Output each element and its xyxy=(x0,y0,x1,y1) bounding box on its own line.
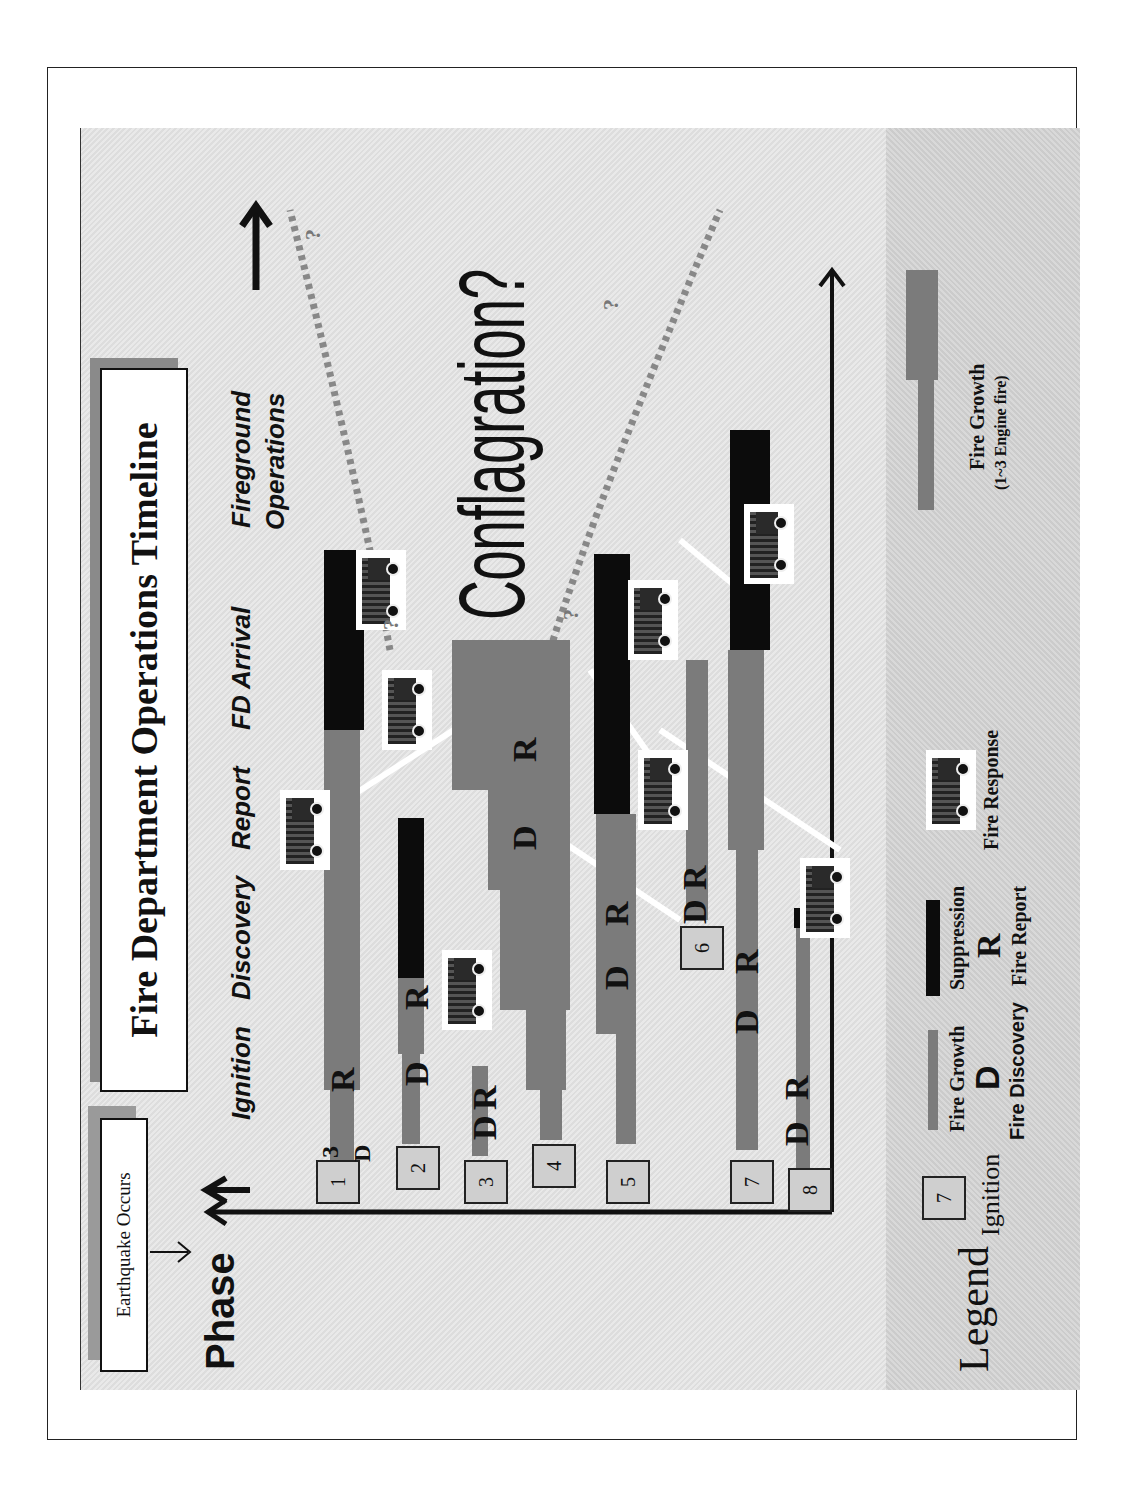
legend-fire-truck-icon xyxy=(926,750,976,830)
ignition-box-3: 3 xyxy=(464,1160,508,1204)
fire-truck-icon xyxy=(744,504,794,584)
fire-growth-bar-7a xyxy=(736,850,758,1150)
discovery-4: D xyxy=(508,825,542,850)
legend-fire-growth-swatch xyxy=(928,1030,938,1130)
legend-suppression-label: Suppression xyxy=(946,886,969,990)
legend-discovery-letter: D xyxy=(970,1065,1004,1090)
legend-suppression-swatch xyxy=(926,900,940,996)
legend-fire-growth-engine-label: Fire Growth xyxy=(966,364,989,470)
report-5: R xyxy=(600,901,634,926)
fire-growth-bar-3 xyxy=(472,1066,488,1156)
phase-fireground: Fireground xyxy=(226,391,257,528)
question-mark: ? xyxy=(560,609,582,620)
report-6: R xyxy=(678,865,712,890)
legend-fire-growth-engine-swatch-a xyxy=(918,380,934,510)
fire-truck-icon xyxy=(628,580,678,660)
discovery-6: D xyxy=(678,899,712,924)
question-mark: ? xyxy=(600,299,622,310)
conflagration-label: Conflagration? xyxy=(440,269,545,620)
suppression-bar-2 xyxy=(398,818,424,978)
discovery-7: D xyxy=(730,1009,764,1034)
fire-growth-bar-4b xyxy=(526,1010,566,1090)
phase-discovery: Discovery xyxy=(226,876,257,1000)
legend-fire-response-label: Fire Response xyxy=(980,730,1003,850)
fire-truck-icon xyxy=(280,790,330,870)
report-4: R xyxy=(508,737,542,762)
ignition-box-7: 7 xyxy=(730,1160,774,1204)
ignition-box-8: 8 xyxy=(788,1168,832,1212)
report-7: R xyxy=(730,949,764,974)
suppression-bar-5 xyxy=(594,554,630,814)
fire-growth-bar-4e xyxy=(452,640,570,790)
phase-ignition: Ignition xyxy=(226,1026,257,1120)
legend-engine-note: (1~3 Engine fire) xyxy=(992,375,1010,490)
fire-growth-bar-7b xyxy=(728,650,764,850)
legend-fire-growth-label: Fire Growth xyxy=(946,1026,969,1132)
report-1: R xyxy=(326,1067,360,1092)
phase-operations: Operations xyxy=(260,393,291,530)
label-extra-3: 3 xyxy=(318,1146,342,1158)
legend-report-letter: R xyxy=(972,933,1006,958)
phase-report: Report xyxy=(226,766,257,850)
discovery-3: D xyxy=(468,1115,502,1140)
report-8: R xyxy=(780,1075,814,1100)
legend-ignition-box: 7 xyxy=(922,1176,966,1220)
legend-fire-report-label: Fire Report xyxy=(1008,886,1031,986)
ignition-box-4: 4 xyxy=(532,1144,576,1188)
fire-truck-icon xyxy=(800,858,850,938)
phase-axis-label: Phase xyxy=(198,1252,243,1370)
discovery-8: D xyxy=(780,1121,814,1146)
legend-ignition-label: Ignition xyxy=(976,1154,1006,1236)
fire-growth-bar-5a xyxy=(616,1034,636,1144)
ignition-box-1: 1 xyxy=(316,1160,360,1204)
legend-title: Legend xyxy=(950,1246,998,1372)
fire-truck-icon xyxy=(638,750,688,830)
question-mark: ? xyxy=(302,229,324,240)
legend-fire-growth-engine-swatch-b xyxy=(906,270,938,380)
ignition-box-2: 2 xyxy=(396,1146,440,1190)
report-3: R xyxy=(468,1085,502,1110)
ignition-box-6: 6 xyxy=(680,926,724,970)
discovery-1: D xyxy=(350,1145,374,1162)
question-mark: ? xyxy=(380,619,402,630)
phase-fd-arrival: FD Arrival xyxy=(226,607,257,730)
discovery-5: D xyxy=(600,965,634,990)
report-2: R xyxy=(400,985,434,1010)
legend-fire-discovery-label: Fire Discovery xyxy=(1006,1002,1029,1140)
diagram-stage: Earthquake Occurs Fire Department Operat… xyxy=(80,128,1080,1390)
fire-growth-bar-4c xyxy=(500,890,570,1010)
fire-truck-icon xyxy=(356,550,406,630)
fire-truck-icon xyxy=(442,950,492,1030)
fire-truck-icon xyxy=(382,670,432,750)
discovery-2: D xyxy=(400,1061,434,1086)
ignition-box-5: 5 xyxy=(606,1160,650,1204)
